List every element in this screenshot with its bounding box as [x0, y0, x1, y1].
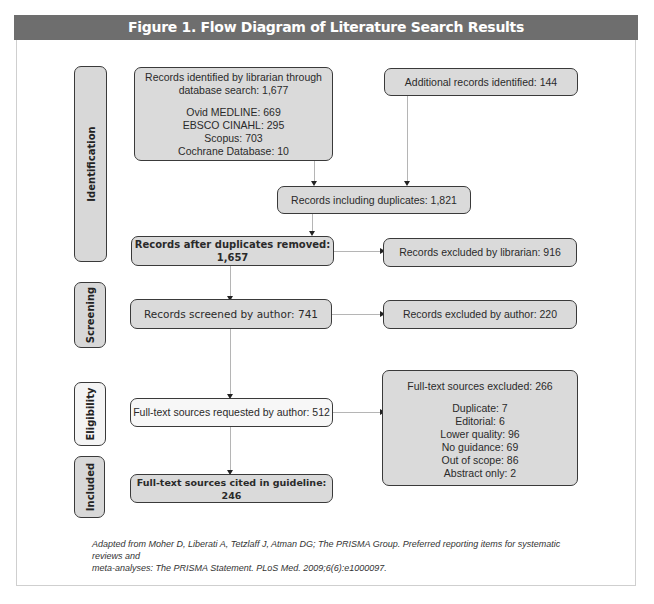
screened-author-text: Records screened by author: 741: [144, 308, 318, 321]
connector-dup-to-after: [312, 213, 313, 233]
stage-eligibility: Eligibility: [74, 382, 106, 446]
excluded-librarian-text: Records excluded by librarian: 916: [399, 246, 561, 259]
caption-line2: meta-analyses: The PRISMA Statement. PLo…: [92, 562, 592, 574]
connector-after-to-screened: [230, 266, 231, 298]
stage-label: Included: [84, 463, 95, 511]
excluded-author-text: Records excluded by author: 220: [403, 308, 557, 321]
after-duplicates-text: Records after duplicates removed: 1,657: [132, 238, 333, 264]
connector-screened-to-excluded: [332, 314, 382, 315]
connector-fulltext-to-cited: [230, 427, 231, 472]
source-item: Cochrane Database: 10: [178, 145, 289, 158]
including-duplicates-text: Records including duplicates: 1,821: [291, 194, 457, 207]
stage-included: Included: [74, 456, 105, 518]
exclusion-reason: Lower quality: 96: [440, 428, 519, 441]
source-item: EBSCO CINAHL: 295: [183, 119, 285, 132]
exclusion-reason: Abstract only: 2: [444, 467, 516, 480]
box-fulltext-excluded: Full-text sources excluded: 266 Duplicat…: [382, 370, 578, 486]
fulltext-requested-text: Full-text sources requested by author: 5…: [133, 406, 330, 419]
connector-screened-to-fulltext: [230, 329, 231, 396]
exclusion-reason: Editorial: 6: [455, 415, 505, 428]
figure-caption: Adapted from Moher D, Liberati A, Tetzla…: [92, 538, 592, 574]
box-excluded-by-librarian: Records excluded by librarian: 916: [383, 238, 577, 267]
connector-db-to-dup: [314, 161, 315, 183]
db-search-line2: database search: 1,677: [179, 84, 289, 97]
source-item: Scopus: 703: [204, 132, 262, 145]
stage-label: Screening: [85, 287, 96, 343]
box-excluded-by-author: Records excluded by author: 220: [383, 300, 577, 329]
figure-title: Figure 1. Flow Diagram of Literature Sea…: [14, 15, 638, 40]
box-fulltext-cited: Full-text sources cited in guideline: 24…: [130, 474, 333, 503]
connector-additional-to-dup: [407, 95, 408, 183]
source-item: Ovid MEDLINE: 669: [186, 106, 281, 119]
box-additional-records: Additional records identified: 144: [384, 68, 578, 96]
stage-screening: Screening: [74, 282, 106, 348]
box-database-search: Records identified by librarian through …: [134, 67, 333, 161]
connector-after-to-excluded: [334, 251, 382, 252]
exclusion-reason: Duplicate: 7: [452, 402, 507, 415]
stage-label: Eligibility: [85, 387, 96, 440]
box-screened-by-author: Records screened by author: 741: [130, 299, 332, 329]
box-records-after-duplicates: Records after duplicates removed: 1,657: [131, 236, 334, 266]
box-fulltext-requested: Full-text sources requested by author: 5…: [130, 398, 333, 427]
stage-label: Identification: [85, 126, 96, 201]
fulltext-excluded-title: Full-text sources excluded: 266: [407, 380, 552, 393]
connector-fulltext-to-excluded: [332, 412, 382, 413]
additional-records-text: Additional records identified: 144: [405, 76, 557, 89]
box-records-including-duplicates: Records including duplicates: 1,821: [277, 186, 471, 214]
caption-line1: Adapted from Moher D, Liberati A, Tetzla…: [92, 538, 592, 562]
stage-identification: Identification: [74, 66, 107, 262]
fulltext-cited-text: Full-text sources cited in guideline: 24…: [131, 476, 332, 502]
db-search-line1: Records identified by librarian through: [145, 71, 322, 84]
exclusion-reason: Out of scope: 86: [441, 454, 518, 467]
exclusion-reason: No guidance: 69: [442, 441, 518, 454]
